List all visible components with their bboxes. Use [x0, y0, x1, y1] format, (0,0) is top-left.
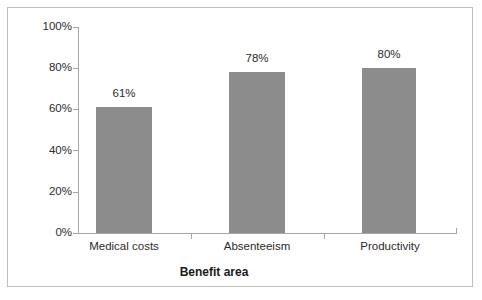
x-axis-end-tick-mark: [456, 228, 457, 234]
y-axis-tick-mark: [73, 233, 78, 234]
y-axis-tick-label: 40%: [4, 145, 72, 157]
y-axis-tick-mark: [73, 27, 78, 28]
bar-absenteeism: [229, 72, 285, 233]
y-axis-tick-label: 0%: [4, 227, 72, 239]
x-axis-title-text: Benefit area: [180, 265, 249, 279]
bar-productivity: [362, 68, 416, 233]
bar-value-label: 61%: [112, 88, 135, 100]
x-axis-tick-mark: [324, 234, 325, 239]
x-axis-line: [78, 233, 457, 234]
y-axis-tick-label: 100%: [4, 21, 72, 33]
bar-value-label: 78%: [245, 53, 268, 65]
y-axis-tick-mark: [73, 68, 78, 69]
y-axis-tick-mark: [73, 109, 78, 110]
x-axis-title: Benefit area: [0, 266, 482, 278]
y-axis-line: [78, 27, 79, 234]
bar-value-label: 80%: [377, 49, 400, 61]
y-axis-tick-label: 80%: [4, 62, 72, 74]
x-axis-category-label: Absenteeism: [224, 241, 290, 253]
x-axis-tick-mark: [191, 234, 192, 239]
y-axis-tick-labels: 100% 80% 60% 40% 20% 0%: [0, 0, 72, 300]
y-axis-tick-mark: [73, 192, 78, 193]
y-axis-tick-mark: [73, 150, 78, 151]
bar-chart: 100% 80% 60% 40% 20% 0% 61% 78% 80% Medi…: [0, 0, 482, 300]
y-axis-tick-label: 20%: [4, 186, 72, 198]
y-axis-tick-label: 60%: [4, 104, 72, 116]
x-axis-category-label: Productivity: [360, 241, 419, 253]
x-axis-category-label: Medical costs: [89, 241, 159, 253]
bar-medical-costs: [96, 107, 152, 233]
